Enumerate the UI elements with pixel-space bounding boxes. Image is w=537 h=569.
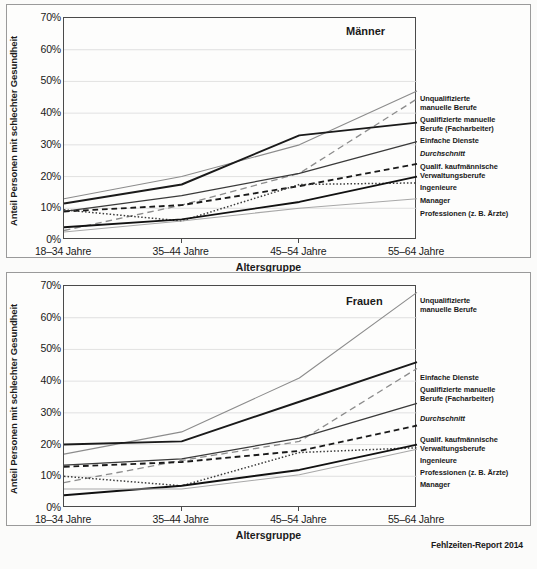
plot-area-maenner: [63, 17, 416, 239]
legend-entry-line: Professionen (z. B. Ärzte): [420, 469, 508, 478]
legend-entry: Ingenieure: [420, 457, 457, 466]
figure-root: Anteil Personen mit schlechter Gesundhei…: [0, 0, 537, 569]
y-tick-label: 50%: [29, 342, 61, 354]
x-tick-label: 45–54 Jahre: [270, 513, 326, 525]
legend-entry-line: Verwaltungsberufe: [420, 172, 498, 181]
y-tick-label: 60%: [29, 43, 61, 55]
legend-entry-line: Manager: [420, 481, 450, 490]
legend-entry: Einfache Dienste: [420, 374, 479, 383]
chart-panel-frauen: Anteil Personen mit schlechter Gesundhei…: [6, 272, 531, 526]
y-tick-label: 50%: [29, 74, 61, 86]
y-tick-label: 30%: [29, 138, 61, 150]
y-tick-label: 20%: [29, 438, 61, 450]
series-line: [64, 448, 417, 486]
legend-entry-line: Einfache Dienste: [420, 137, 479, 146]
legend-entry-line: manuelle Berufe: [420, 306, 477, 315]
legend-entry: Professionen (z. B. Ärzte): [420, 469, 508, 478]
plot-area-frauen: [63, 285, 416, 507]
x-tick-label: 55–64 Jahre: [388, 513, 444, 525]
x-tick-mark: [181, 239, 182, 243]
y-tick-label: 60%: [29, 311, 61, 323]
chart-title-frauen: Frauen: [346, 295, 383, 307]
legend-entry: Einfache Dienste: [420, 137, 479, 146]
x-tick-label: 55–64 Jahre: [388, 245, 444, 257]
legend-entry-line: Einfache Dienste: [420, 374, 479, 383]
legend-entry-line: Manager: [420, 197, 450, 206]
y-tick-label: 70%: [29, 279, 61, 291]
chart-panel-maenner: Anteil Personen mit schlechter Gesundhei…: [6, 4, 531, 258]
legend-entry: Durchschnitt: [420, 415, 465, 424]
legend-entry-line: manuelle Berufe: [420, 104, 477, 113]
x-tick-label: 45–54 Jahre: [270, 245, 326, 257]
legend-entry-line: Berufe (Facharbeiter): [420, 125, 495, 134]
y-tick-label: 0%: [29, 233, 61, 245]
x-tick-mark: [181, 507, 182, 511]
legend-entry-line: Ingenieure: [420, 457, 457, 466]
legend-entry: Qualifizierte manuelleBerufe (Facharbeit…: [420, 116, 495, 133]
series-line: [64, 445, 417, 496]
y-tick-label: 40%: [29, 106, 61, 118]
x-tick-label: 18–34 Jahre: [35, 245, 91, 257]
y-tick-label: 0%: [29, 501, 61, 513]
y-axis-ticks-frauen: 0%10%20%30%40%50%60%70%: [25, 273, 61, 525]
x-tick-label: 35–44 Jahre: [153, 513, 209, 525]
legend-entry-line: Professionen (z. B. Ärzte): [420, 210, 508, 219]
legend-entry: Manager: [420, 197, 450, 206]
figure-source-note: Fehlzeiten-Report 2014: [431, 540, 523, 550]
legend-entry: Unqualifiziertemanuelle Berufe: [420, 297, 477, 314]
x-tick-label: 35–44 Jahre: [153, 245, 209, 257]
x-tick-label: 18–34 Jahre: [35, 513, 91, 525]
legend-entry-line: Berufe (Facharbeiter): [420, 395, 495, 404]
y-axis-ticks-maenner: 0%10%20%30%40%50%60%70%: [25, 5, 61, 257]
legend-entry: Manager: [420, 481, 450, 490]
series-line: [64, 362, 417, 444]
legend-entry: Qualif. kaufmännischeVerwaltungsberufe: [420, 436, 498, 453]
series-line: [64, 292, 417, 454]
legend-entry: Ingenieure: [420, 184, 457, 193]
y-tick-label: 30%: [29, 406, 61, 418]
series-line: [64, 123, 417, 204]
legend-entry: Qualifizierte manuelleBerufe (Facharbeit…: [420, 386, 495, 403]
y-tick-label: 40%: [29, 374, 61, 386]
y-axis-title-maenner: Anteil Personen mit schlechter Gesundhei…: [5, 5, 21, 257]
legend-entry: Durchschnitt: [420, 150, 465, 159]
legend-entry-line: Durchschnitt: [420, 415, 465, 424]
chart-title-maenner: Männer: [346, 25, 385, 37]
y-tick-label: 20%: [29, 170, 61, 182]
legend-entry-line: Verwaltungsberufe: [420, 445, 498, 454]
y-axis-title-frauen: Anteil Personen mit schlechter Gesundhei…: [5, 273, 21, 525]
y-tick-label: 10%: [29, 469, 61, 481]
x-tick-mark: [298, 239, 299, 243]
legend-entry: Unqualifiziertemanuelle Berufe: [420, 95, 477, 112]
legend-entry: Professionen (z. B. Ärzte): [420, 210, 508, 219]
y-tick-label: 70%: [29, 11, 61, 23]
x-tick-mark: [298, 507, 299, 511]
legend-entry: Qualif. kaufmännischeVerwaltungsberufe: [420, 163, 498, 180]
legend-entry-line: Ingenieure: [420, 184, 457, 193]
legend-entry-line: Durchschnitt: [420, 150, 465, 159]
y-tick-label: 10%: [29, 201, 61, 213]
